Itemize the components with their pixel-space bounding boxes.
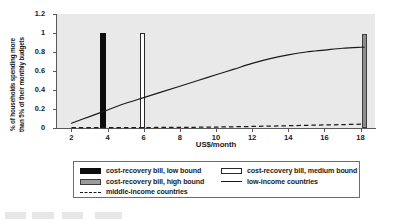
- legend-swatch-black-bar: [80, 168, 101, 174]
- y-tick-label: 1: [5, 28, 45, 37]
- chart-figure: % of households spending more than 5% of…: [0, 0, 393, 220]
- x-tick-mark: [361, 128, 362, 132]
- x-tick-mark: [252, 128, 253, 132]
- legend-item-cost-recovery-low: cost-recovery bill, low bound: [80, 167, 201, 175]
- y-tick-label: 0: [5, 123, 45, 132]
- x-tick-mark: [288, 128, 289, 132]
- x-tick-mark: [324, 128, 325, 132]
- y-tick-label: 0.2: [5, 104, 45, 113]
- y-tick-label: 1.2: [5, 9, 45, 18]
- low-income-countries-line: [71, 47, 364, 123]
- legend-label: cost-recovery bill, low bound: [106, 167, 201, 175]
- legend-item-cost-recovery-medium: cost-recovery bill, medium bound: [221, 167, 357, 175]
- legend-swatch-dashed-line: [80, 189, 101, 195]
- legend-swatch-gray-bar: [80, 179, 101, 185]
- plot-area: 00.20.40.60.811.2 24681012141618: [57, 14, 375, 128]
- y-tick-label: 0.6: [5, 66, 45, 75]
- x-tick-mark: [144, 128, 145, 132]
- legend-label: cost-recovery bill, medium bound: [247, 167, 357, 175]
- x-tick-mark: [108, 128, 109, 132]
- y-tick-label: 0.4: [5, 85, 45, 94]
- chart-legend: cost-recovery bill, low bound cost-recov…: [73, 161, 360, 198]
- legend-label: low-income countries: [247, 178, 318, 186]
- line-series-group: [57, 14, 375, 128]
- legend-label: cost-recovery bill, high bound: [106, 178, 204, 186]
- cropped-caption-text: [5, 212, 155, 219]
- x-axis-title: US$/month: [57, 140, 375, 149]
- y-tick-label: 0.8: [5, 47, 45, 56]
- legend-label: middle-income countries: [106, 188, 188, 196]
- legend-item-cost-recovery-high: cost-recovery bill, high bound: [80, 178, 204, 186]
- y-tick-mark: [53, 128, 57, 129]
- x-tick-mark: [71, 128, 72, 132]
- legend-swatch-solid-line: [221, 179, 242, 185]
- legend-item-middle-income: middle-income countries: [80, 188, 188, 196]
- middle-income-countries-line: [71, 124, 364, 128]
- legend-swatch-white-bar: [221, 168, 242, 174]
- x-tick-mark: [216, 128, 217, 132]
- legend-item-low-income: low-income countries: [221, 178, 318, 186]
- x-tick-mark: [180, 128, 181, 132]
